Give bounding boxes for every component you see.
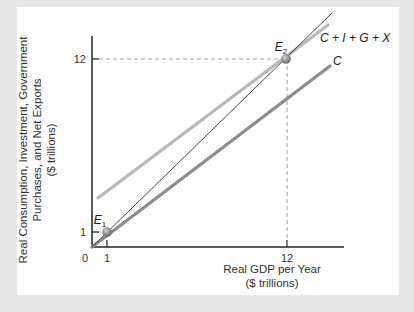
- x-tick-label-1: 1: [104, 252, 110, 264]
- e2-label: E2: [275, 40, 288, 56]
- 45-degree-line: [92, 13, 332, 247]
- y-axis-title-line-2: Purchases, and Net Exports: [30, 20, 44, 280]
- x-axis-title-line-1: Real GDP per Year: [152, 262, 392, 276]
- y-axis-title-line-3: ($ trillions): [44, 20, 58, 280]
- x-axis-title-line-2: ($ trillions): [152, 276, 392, 290]
- c-curve-label: C: [333, 54, 342, 68]
- origin-label: 0: [82, 252, 88, 264]
- y-tick-label-12: 12: [74, 53, 86, 65]
- aggregate-expenditure-label: C + I + G + X: [320, 31, 391, 45]
- c-line: [92, 66, 330, 247]
- y-axis-title-line-1: Real Consumption, Investment, Government: [16, 20, 30, 280]
- e1-label: E1: [94, 213, 107, 229]
- y-tick-label-1: 1: [80, 226, 86, 238]
- x-axis-title: Real GDP per Year ($ trillions): [152, 262, 392, 290]
